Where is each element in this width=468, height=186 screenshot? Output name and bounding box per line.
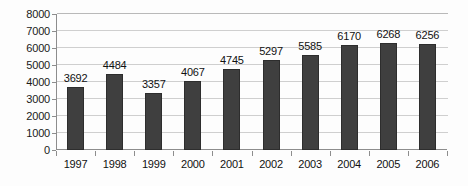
bar-value-label: 3357: [142, 79, 166, 90]
bar[interactable]: [263, 60, 280, 150]
bar-slot: 3692: [56, 14, 95, 150]
y-axis-label-8000: 8000: [6, 9, 50, 20]
x-axis-label: 2000: [173, 159, 212, 170]
bar-value-label: 6268: [376, 29, 400, 40]
y-axis-label-5000: 5000: [6, 60, 50, 71]
bar-slot: 6256: [408, 14, 447, 150]
bar[interactable]: [302, 55, 319, 150]
x-tick: [252, 151, 253, 156]
x-axis-label: 2003: [291, 159, 330, 170]
bar-value-label: 6170: [337, 31, 361, 42]
bar-slot: 4745: [212, 14, 251, 150]
bar-value-label: 4745: [220, 55, 244, 66]
x-tick: [134, 151, 135, 156]
bar-chart: 8000 7000 6000 5000 4000 3000 2000 1000 …: [0, 0, 468, 186]
y-axis-label-2000: 2000: [6, 111, 50, 122]
bar-series: 3692448433574067474552975585617062686256: [56, 14, 447, 150]
x-axis-labels: 1997199819992000200120022003200420052006: [56, 159, 447, 170]
x-axis-label: 2001: [212, 159, 251, 170]
x-tick: [56, 151, 57, 156]
bar-slot: 5585: [291, 14, 330, 150]
bar[interactable]: [145, 93, 162, 150]
x-axis-label: 2006: [408, 159, 447, 170]
x-tick: [173, 151, 174, 156]
y-axis-label-7000: 7000: [6, 26, 50, 37]
bar-slot: 6268: [369, 14, 408, 150]
x-axis-label: 2002: [251, 159, 290, 170]
x-axis-label: 1998: [95, 159, 134, 170]
bar-slot: 5297: [251, 14, 290, 150]
y-axis-label-0: 0: [6, 145, 50, 156]
bar[interactable]: [67, 87, 84, 150]
x-tick: [369, 151, 370, 156]
bar-slot: 3357: [134, 14, 173, 150]
x-axis-label: 2005: [369, 159, 408, 170]
bar-slot: 4067: [173, 14, 212, 150]
bar-value-label: 5297: [259, 46, 283, 57]
bar[interactable]: [106, 74, 123, 150]
y-axis-label-4000: 4000: [6, 77, 50, 88]
bar-value-label: 4484: [103, 60, 127, 71]
bar[interactable]: [223, 69, 240, 150]
bar-value-label: 4067: [181, 67, 205, 78]
bar[interactable]: [419, 44, 436, 150]
x-tick: [447, 151, 448, 156]
bar-value-label: 5585: [298, 41, 322, 52]
bar[interactable]: [184, 81, 201, 150]
y-axis-label-1000: 1000: [6, 128, 50, 139]
y-axis-label-6000: 6000: [6, 43, 50, 54]
bar-slot: 6170: [330, 14, 369, 150]
x-axis-label: 2004: [330, 159, 369, 170]
x-axis-ticks: [56, 151, 447, 156]
bar-slot: 4484: [95, 14, 134, 150]
bar-value-label: 6256: [416, 30, 440, 41]
x-tick: [212, 151, 213, 156]
bar-value-label: 3692: [64, 73, 88, 84]
x-tick: [95, 151, 96, 156]
x-tick: [291, 151, 292, 156]
x-tick: [330, 151, 331, 156]
y-axis-label-3000: 3000: [6, 94, 50, 105]
bar[interactable]: [341, 45, 358, 150]
x-tick: [408, 151, 409, 156]
x-axis-label: 1997: [56, 159, 95, 170]
x-axis-label: 1999: [134, 159, 173, 170]
bar[interactable]: [380, 43, 397, 150]
